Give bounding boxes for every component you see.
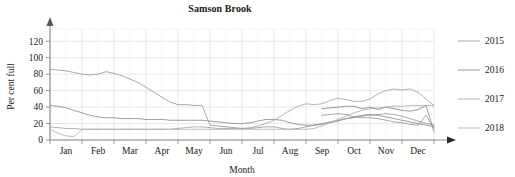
legend-label-2018: 2018 (485, 123, 504, 133)
y-tick-label: 100 (29, 53, 44, 63)
x-tick-label: Oct (347, 146, 361, 156)
x-tick-label: Nov (378, 146, 395, 156)
legend-label-2015: 2015 (485, 36, 504, 46)
x-tick-label: Dec (410, 146, 425, 156)
y-tick-label: 120 (29, 37, 44, 47)
y-tick-label: 80 (34, 69, 44, 79)
x-tick-label: Jan (60, 146, 73, 156)
x-tick-label: Jul (252, 146, 263, 156)
x-tick-label: Sep (315, 146, 330, 156)
y-tick-label: 40 (34, 102, 44, 112)
y-axis-title: Per cent full (6, 63, 16, 110)
y-tick-label: 20 (34, 119, 44, 129)
legend-label-2017: 2017 (485, 94, 504, 104)
y-axis-ticks: 020406080100120 (29, 37, 50, 146)
x-tick-label: Apr (155, 146, 171, 156)
x-axis-title: Month (229, 165, 255, 175)
y-tick-label: 0 (38, 135, 43, 145)
x-tick-label: Mar (122, 146, 139, 156)
line-chart: 020406080100120JanFebMarAprMayJunJulAugS… (0, 0, 515, 177)
x-tick-label: Jun (219, 146, 232, 156)
legend-label-2016: 2016 (485, 65, 504, 75)
x-axis-ticks: JanFebMarAprMayJunJulAugSepOctNovDec (50, 140, 434, 156)
x-tick-label: May (185, 146, 203, 156)
x-tick-label: Aug (282, 146, 299, 156)
legend: 2015201620172018 (458, 36, 504, 133)
y-tick-label: 60 (34, 86, 44, 96)
chart-container: Samson Brook 020406080100120JanFebMarApr… (0, 0, 515, 177)
axes (47, 17, 457, 144)
x-tick-label: Feb (91, 146, 106, 156)
